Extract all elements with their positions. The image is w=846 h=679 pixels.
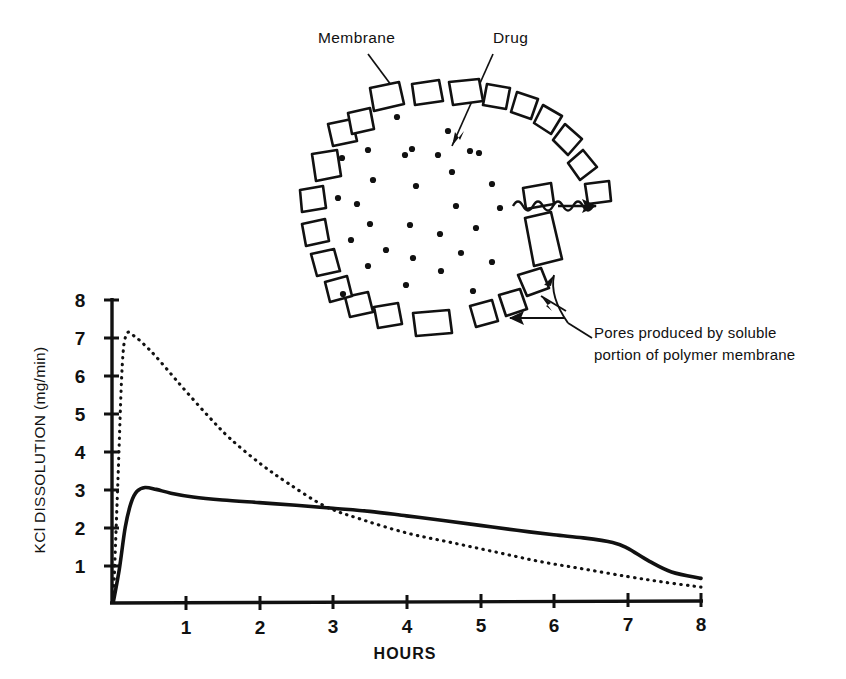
pores-label-line2: portion of polymer membrane (594, 346, 795, 363)
membrane-block (302, 219, 329, 246)
membrane-label: Membrane (318, 29, 395, 46)
x-tick-6: 6 (549, 615, 560, 636)
y-tick-7: 7 (75, 328, 86, 349)
y-tick-8: 8 (75, 290, 86, 311)
membrane-block (585, 181, 611, 204)
drug-label: Drug (493, 29, 528, 46)
y-tick-4: 4 (75, 442, 86, 463)
x-tick-5: 5 (476, 615, 487, 636)
x-tick-3: 3 (328, 616, 339, 637)
y-axis-title: KCl DISSOLUTION (mg/min) (31, 347, 48, 554)
x-tick-4: 4 (402, 616, 413, 637)
membrane-block (348, 108, 374, 134)
membrane-block (300, 186, 326, 212)
x-tick-2: 2 (255, 617, 266, 638)
x-tick-7: 7 (623, 614, 634, 635)
membrane-block (325, 276, 352, 302)
x-axis-title: HOURS (374, 645, 437, 662)
membrane-block (449, 79, 483, 105)
membrane-block (483, 84, 510, 109)
controlled-release-figure: Membrane Drug (0, 0, 846, 679)
membrane-block (470, 300, 498, 327)
x-tick-1: 1 (181, 617, 192, 638)
y-tick-5: 5 (75, 404, 86, 425)
membrane-block (523, 183, 554, 209)
membrane-block (374, 303, 402, 328)
membrane-block (311, 249, 340, 276)
y-tick-6: 6 (75, 366, 86, 387)
membrane-block (412, 80, 443, 105)
y-tick-1: 1 (75, 556, 86, 577)
x-tick-8: 8 (696, 614, 707, 635)
membrane-block (413, 310, 452, 336)
pores-label-line1: Pores produced by soluble (594, 324, 777, 341)
y-tick-3: 3 (75, 480, 86, 501)
y-tick-2: 2 (75, 518, 86, 539)
membrane-block (312, 150, 341, 181)
